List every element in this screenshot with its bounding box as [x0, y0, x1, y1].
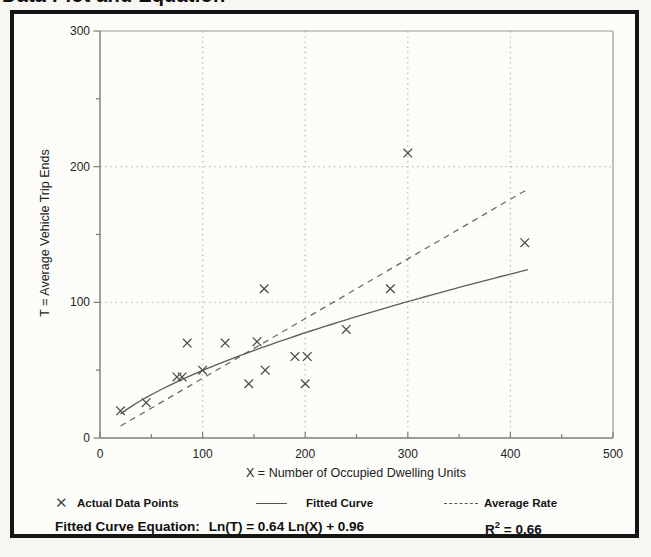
data-point-marker	[260, 284, 269, 293]
data-point-marker	[198, 366, 207, 375]
x-tick-label: 400	[500, 447, 520, 461]
legend-label-average-rate: Average Rate	[484, 497, 557, 509]
average-rate-line	[121, 189, 528, 426]
data-point-marker	[183, 339, 192, 348]
data-point-marker	[142, 398, 151, 407]
equation-value: Ln(T) = 0.64 Ln(X) + 0.96	[209, 519, 364, 534]
legend-dashed-line-icon	[444, 503, 478, 504]
y-tick-label: 0	[83, 431, 90, 445]
x-axis-title: X = Number of Occupied Dwelling Units	[246, 466, 466, 480]
y-axis-title: T = Average Vehicle Trip Ends	[38, 149, 52, 316]
data-point-marker	[291, 352, 300, 361]
equation-label: Fitted Curve Equation:	[55, 519, 200, 534]
legend-label-actual-data-points: Actual Data Points	[77, 497, 179, 509]
x-tick-label: 200	[295, 447, 315, 461]
x-tick-label: 0	[97, 447, 104, 461]
data-point-marker	[386, 284, 395, 293]
data-point-marker	[342, 325, 351, 334]
scanned-chart-page: Data Plot and Equation 01002003004005000…	[0, 0, 651, 557]
x-tick-label: 300	[398, 447, 418, 461]
data-point-marker	[221, 339, 230, 348]
data-point-marker	[520, 238, 529, 247]
fitted-curve-line	[121, 270, 528, 414]
r-squared-value: R2 = 0.66	[485, 519, 542, 537]
x-tick-label: 500	[603, 447, 623, 461]
fitted-curve-equation: Fitted Curve Equation:Ln(T) = 0.64 Ln(X)…	[55, 519, 364, 534]
data-point-marker	[261, 366, 270, 375]
y-tick-label: 200	[70, 160, 90, 174]
x-tick-label: 100	[193, 447, 213, 461]
data-point-marker	[303, 352, 312, 361]
legend-label-fitted-curve: Fitted Curve	[306, 497, 373, 509]
y-tick-label: 100	[70, 295, 90, 309]
legend-x-marker-icon: ✕	[55, 495, 68, 510]
y-tick-label: 300	[70, 24, 90, 38]
legend-solid-line-icon	[256, 503, 287, 504]
data-point-marker	[253, 337, 262, 346]
data-point-marker	[173, 373, 182, 382]
data-point-marker	[244, 379, 253, 388]
